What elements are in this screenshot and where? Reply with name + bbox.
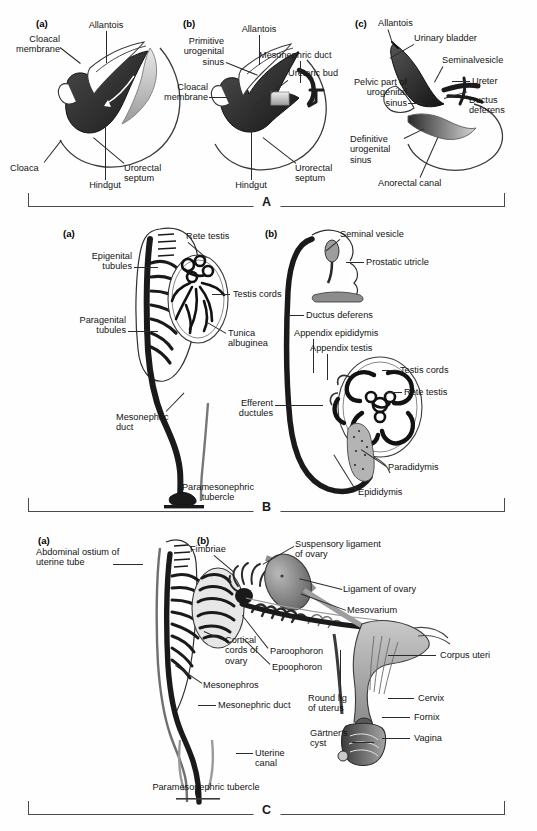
leader-corpus-uteri-c-b <box>388 655 436 656</box>
label-urorectal-septum-a-a: Urorectal septum <box>124 163 161 184</box>
leader-pelvic-part-a-c <box>408 103 422 104</box>
section-bracket-b: B <box>28 498 505 520</box>
leader-efferent-ductules-b-b <box>275 405 323 406</box>
label-pelvic-part-a-c: Pelvic part of urogenital sinus <box>331 77 407 108</box>
figure-page: (a) Allantois <box>0 0 537 831</box>
label-paragenital-tubules-b-a: Paragenital tubules <box>52 315 126 336</box>
label-efferent-ductules-b-b: Efferent ductules <box>215 398 273 419</box>
label-gartners-cyst-c-b: Gärtner's cyst <box>310 728 348 749</box>
panel-tag-a-c: (c) <box>355 18 367 29</box>
leader-round-lig-c-b <box>340 650 341 692</box>
figure-section-a: (a) Allantois <box>0 10 537 215</box>
label-abdominal-ostium-c-a: Abdominal ostium of uterine tube <box>36 547 119 568</box>
leader-cloacal-membrane-a-b <box>209 97 227 98</box>
leader-ureter-a-c <box>452 81 470 82</box>
leader-paragenital-tubules-b-a <box>128 331 158 332</box>
label-hindgut-a-b: Hindgut <box>224 180 278 190</box>
leader-mesonephric-duct-c-a <box>198 705 216 706</box>
diagram-art-b-a <box>120 221 240 511</box>
page-header <box>14 0 274 9</box>
label-epididymis-b-b: Epididymis <box>358 487 402 497</box>
label-testis-cords-b-b: Testis cords <box>400 365 449 375</box>
label-round-lig-c-b: Round lig of uterus <box>308 693 347 714</box>
label-rete-testis-b-b: Rete testis <box>404 387 447 397</box>
label-vagina-c-b: Vagina <box>414 733 442 743</box>
bracket-tick-right-b <box>504 498 505 512</box>
leader-hindgut-a-b <box>251 122 252 180</box>
diagram-art-c-b <box>222 550 452 785</box>
label-anorectal-canal-a-c: Anorectal canal <box>378 178 441 188</box>
label-mesonephric-duct-b-a: Mesonephric duct <box>116 412 169 433</box>
label-prostatic-utricle-b-b: Prostatic utricle <box>366 257 429 267</box>
leader-testis-cords-b-b <box>382 370 398 371</box>
label-seminal-vesicle-a-c: Seminalvesicle <box>442 55 503 65</box>
label-urinary-bladder-a-c: Urinary bladder <box>414 33 477 43</box>
label-cloaca-a-a: Cloaca <box>10 163 39 173</box>
section-letter-a: A <box>253 196 280 208</box>
leader-rete-testis-b-b <box>386 392 402 393</box>
label-suspensory-ligament-c-b: Suspensory ligament of ovary <box>295 539 381 560</box>
bracket-tick-left-c <box>28 801 29 815</box>
panel-tag-c-a: (a) <box>38 535 50 546</box>
label-ureter-a-c: Ureter <box>472 76 498 86</box>
label-paradidymis-b-b: Paradidymis <box>388 462 439 472</box>
label-fornix-c-b: Fornix <box>414 712 440 722</box>
bracket-tick-right-a <box>504 193 505 207</box>
section-letter-b: B <box>253 501 280 513</box>
leader-prostatic-utricle-b-b <box>346 262 364 263</box>
label-cloacal-membrane-a-a: Cloacal membrane <box>2 34 60 55</box>
section-bracket-c: C <box>28 801 505 823</box>
label-ductus-deferens-b-b: Ductus deferens <box>306 310 373 320</box>
bracket-tick-left-b <box>28 498 29 512</box>
label-mesovarium-c-b: Mesovarium <box>347 605 397 615</box>
leader-fornix-c-b <box>382 717 410 718</box>
label-seminal-vesicle-b-b: Seminal vesicle <box>340 229 404 239</box>
label-rete-testis-b-a: Rete testis <box>186 231 229 241</box>
label-allantois-a-c: Allantois <box>378 18 413 28</box>
label-allantois-a-a: Allantois <box>75 20 137 30</box>
section-bracket-a: A <box>28 193 505 215</box>
bracket-tick-right-c <box>504 801 505 815</box>
label-epoophoron-c-b: Epoophoron <box>272 662 322 672</box>
label-ligament-of-ovary-c-b: Ligament of ovary <box>343 584 416 594</box>
label-urorectal-septum-a-b: Urorectal septum <box>295 163 332 184</box>
label-epigenital-tubules-b-a: Epigenital tubules <box>68 251 132 272</box>
label-tunica-albuginea-b-a: Tunica albuginea <box>228 328 268 349</box>
leader-vagina-c-b <box>382 738 410 739</box>
label-allantois-a-b: Allantois <box>231 24 287 34</box>
leader-abdominal-ostium-c-a <box>113 564 143 565</box>
label-definitive-sinus-a-c: Definitive urogenital sinus <box>350 134 390 165</box>
label-fimbriae-c-b: Fimbriae <box>190 544 226 554</box>
label-appendix-testis-b-b: Appendix testis <box>310 343 372 353</box>
panel-tag-b-a: (a) <box>63 228 75 239</box>
leader-testis-cords-b-a <box>212 294 230 295</box>
label-testis-cords-b-a: Testis cords <box>233 289 282 299</box>
leader-hindgut-a-a <box>105 122 106 180</box>
leader-ductus-deferens-b-b <box>288 315 304 316</box>
section-letter-c: C <box>253 804 280 816</box>
panel-tag-a-b: (b) <box>183 18 195 29</box>
leader-appendix-testis-b-b <box>327 354 328 380</box>
leader-allantois-a-a <box>106 31 107 63</box>
figure-section-b: (a) <box>0 215 537 520</box>
label-appendix-epididymis-b-b: Appendix epididymis <box>294 328 378 338</box>
label-cloacal-membrane-a-b: Cloacal membrane <box>148 82 208 103</box>
label-cervix-c-b: Cervix <box>418 693 444 703</box>
label-primitive-urogenital-sinus-a-b: Primitive urogenital sinus <box>166 36 224 67</box>
leader-gartners-cyst-c-b <box>352 742 374 743</box>
figure-section-c: (a) <box>0 520 537 831</box>
label-corpus-uteri-c-b: Corpus uteri <box>440 650 490 660</box>
leader-cervix-c-b <box>388 698 414 699</box>
label-ductus-deferens-a-c: Ductus deferens <box>469 95 505 116</box>
label-paroophoron-c-b: Paroophoron <box>270 646 323 656</box>
leader-epigenital-tubules-b-a <box>134 267 158 268</box>
label-mesonephric-duct-a-b: Mesonephric duct <box>259 50 332 60</box>
bracket-tick-left-a <box>28 193 29 207</box>
